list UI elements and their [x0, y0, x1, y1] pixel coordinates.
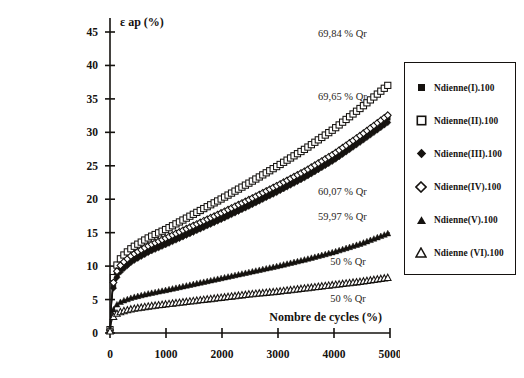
x-tick-label: 1000	[155, 348, 178, 360]
legend-item-2[interactable]: Ndienne(III).100	[405, 137, 515, 170]
chart-legend: Ndienne(I).100 Ndienne(II).100 Ndienne(I…	[404, 62, 516, 275]
legend-item-0[interactable]: Ndienne(I).100	[405, 71, 515, 104]
y-axis-title: ε ap (%)	[120, 15, 164, 29]
legend-label-1: Ndienne(II).100	[434, 116, 498, 126]
annotation-3: 59,97 % Qr	[318, 211, 367, 222]
x-tick-label: 0	[107, 348, 113, 360]
legend-item-5[interactable]: Ndienne (VI).100	[405, 236, 515, 269]
x-axis-title: Nombre de cycles (%)	[269, 310, 382, 324]
y-tick-label: 5	[92, 294, 98, 306]
x-tick-label: 5000	[379, 348, 401, 360]
chart-svg: 051015202530354045010002000300040005000ε…	[0, 0, 400, 378]
filled-square-icon	[413, 80, 429, 96]
legend-label-4: Ndienne(V).100	[434, 215, 498, 225]
y-tick-label: 40	[87, 59, 99, 71]
plot-area: 051015202530354045010002000300040005000ε…	[0, 0, 400, 378]
filled-triangle-icon	[413, 212, 429, 228]
y-tick-label: 15	[87, 227, 99, 239]
annotation-4: 50 % Qr	[330, 256, 366, 267]
legend-label-0: Ndienne(I).100	[434, 83, 495, 93]
y-tick-label: 35	[87, 93, 99, 105]
legend-item-4[interactable]: Ndienne(V).100	[405, 203, 515, 236]
open-diamond-icon	[413, 179, 429, 195]
y-tick-label: 30	[87, 126, 99, 138]
annotation-1: 69,65 % Qr	[318, 91, 367, 102]
figure-container: 051015202530354045010002000300040005000ε…	[0, 0, 524, 378]
legend-label-2: Ndienne(III).100	[434, 149, 502, 159]
open-square-icon	[413, 113, 429, 129]
filled-diamond-icon	[413, 146, 429, 162]
legend-item-3[interactable]: Ndienne(IV).100	[405, 170, 515, 203]
legend-item-1[interactable]: Ndienne(II).100	[405, 104, 515, 137]
data-point	[385, 82, 391, 88]
y-tick-label: 25	[87, 160, 99, 172]
annotation-0: 69,84 % Qr	[318, 28, 367, 39]
annotation-2: 60,07 % Qr	[318, 186, 367, 197]
x-tick-label: 4000	[323, 348, 346, 360]
y-tick-label: 45	[87, 26, 99, 38]
annotation-5: 50 % Qr	[330, 293, 366, 304]
y-tick-label: 20	[87, 193, 99, 205]
x-tick-label: 2000	[211, 348, 234, 360]
legend-label-3: Ndienne(IV).100	[434, 182, 501, 192]
open-triangle-icon	[413, 245, 429, 261]
y-tick-label: 10	[87, 260, 99, 272]
x-tick-label: 3000	[267, 348, 290, 360]
y-tick-label: 0	[92, 327, 98, 339]
legend-label-5: Ndienne (VI).100	[434, 248, 504, 258]
